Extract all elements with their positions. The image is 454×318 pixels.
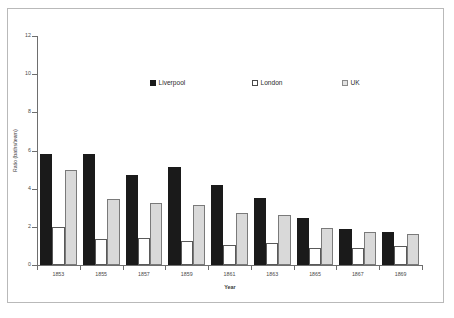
plot-area — [37, 36, 422, 265]
chart-figure: 024681012 185318551857185918611863186518… — [0, 0, 454, 318]
x-axis-tick — [80, 266, 81, 270]
x-axis-tick — [123, 266, 124, 270]
bar-london-1863 — [266, 243, 278, 265]
bar-london-1861 — [223, 245, 235, 265]
bar-liverpool-1867 — [339, 229, 351, 265]
y-axis-tick-label-wrap: 2 — [0, 227, 31, 228]
x-axis-tick — [251, 266, 252, 270]
bar-london-1853 — [52, 227, 64, 265]
x-axis-tick — [208, 266, 209, 270]
y-axis-tick-label: 2 — [5, 224, 31, 229]
bar-london-1855 — [95, 239, 107, 265]
y-axis-tick-label: 8 — [5, 109, 31, 114]
bar-london-1867 — [352, 248, 364, 265]
bar-liverpool-1855 — [83, 154, 95, 265]
bar-liverpool-1857 — [126, 175, 138, 265]
y-axis-tick-label: 6 — [5, 148, 31, 153]
y-axis-tick-label: 12 — [5, 33, 31, 38]
y-axis-tick-label-wrap: 12 — [0, 36, 31, 37]
bar-uk-1865 — [321, 228, 333, 265]
x-axis-tick-label: 1853 — [38, 272, 78, 277]
bar-liverpool-1869 — [382, 232, 394, 265]
y-axis-tick-label-wrap: 8 — [0, 112, 31, 113]
x-axis-tick-label: 1865 — [295, 272, 335, 277]
bar-liverpool-1859 — [168, 167, 180, 265]
bar-uk-1867 — [364, 232, 376, 265]
bar-london-1859 — [181, 241, 193, 265]
x-axis-tick — [165, 266, 166, 270]
y-axis-tick-label: 0 — [5, 262, 31, 267]
x-axis-line — [37, 265, 423, 266]
y-axis-tick-label-wrap: 10 — [0, 74, 31, 75]
bar-uk-1855 — [107, 199, 119, 265]
bar-uk-1861 — [236, 213, 248, 265]
x-axis-tick — [336, 266, 337, 270]
y-axis-tick-label-wrap: 4 — [0, 189, 31, 190]
x-axis-tick-label: 1855 — [81, 272, 121, 277]
bar-liverpool-1863 — [254, 198, 266, 265]
x-axis-tick — [37, 266, 38, 270]
bar-uk-1863 — [278, 215, 290, 265]
x-axis-tick-label: 1859 — [167, 272, 207, 277]
x-axis-title: Year — [37, 284, 423, 290]
y-axis-tick-label: 10 — [5, 71, 31, 76]
bar-uk-1869 — [407, 234, 419, 265]
x-axis-tick-label: 1857 — [124, 272, 164, 277]
x-axis-tick-label: 1861 — [210, 272, 250, 277]
bar-london-1869 — [394, 246, 406, 265]
y-axis-tick-label: 4 — [5, 186, 31, 191]
y-axis-tick-label-wrap: 0 — [0, 265, 31, 266]
x-axis-tick-label: 1863 — [252, 272, 292, 277]
bar-uk-1857 — [150, 203, 162, 265]
bar-liverpool-1861 — [211, 185, 223, 265]
bar-liverpool-1853 — [40, 154, 52, 265]
bar-london-1865 — [309, 248, 321, 265]
bar-uk-1859 — [193, 205, 205, 265]
x-axis-tick-label: 1867 — [338, 272, 378, 277]
x-axis-tick — [294, 266, 295, 270]
y-axis-title: Ratio (baths/team) — [12, 129, 18, 172]
bar-uk-1853 — [65, 170, 77, 265]
bar-london-1857 — [138, 238, 150, 265]
x-axis-tick-label: 1869 — [381, 272, 421, 277]
x-axis-tick — [422, 266, 423, 270]
bar-liverpool-1865 — [297, 218, 309, 265]
x-axis-tick — [379, 266, 380, 270]
